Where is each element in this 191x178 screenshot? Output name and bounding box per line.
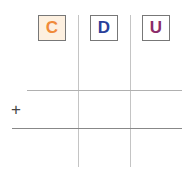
column-header-d[interactable]: D <box>90 15 118 41</box>
column-label-c: C <box>46 18 58 38</box>
grid-divider-vertical-2 <box>130 15 131 167</box>
grid-divider-horizontal-2 <box>12 128 182 129</box>
grid-divider-vertical-1 <box>78 15 79 167</box>
column-header-u[interactable]: U <box>142 15 170 41</box>
column-header-c[interactable]: C <box>38 15 66 41</box>
add-row-icon[interactable]: + <box>11 100 21 120</box>
grid-divider-horizontal-1 <box>27 90 182 91</box>
column-label-d: D <box>98 18 110 38</box>
column-label-u: U <box>150 18 162 38</box>
